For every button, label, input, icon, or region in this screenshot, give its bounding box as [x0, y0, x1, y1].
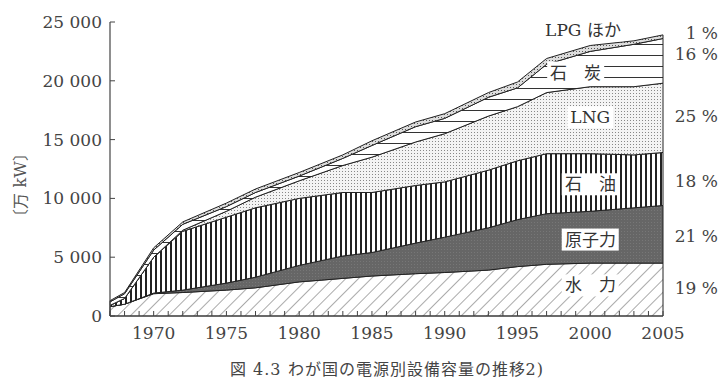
y-axis-label-container: 〔万 kW〕 — [6, 130, 36, 240]
share-percent-label: 21 % — [675, 226, 718, 246]
series-label: 石 炭 — [550, 63, 601, 83]
y-tick-label: 0 — [91, 306, 102, 326]
x-tick-label: 1985 — [350, 323, 393, 343]
x-tick-label: 1970 — [132, 323, 175, 343]
series-label: 水 力 — [565, 275, 616, 295]
y-tick-label: 10 000 — [43, 188, 102, 208]
x-tick-label: 2005 — [641, 323, 684, 343]
share-percent-label: 1 % — [686, 23, 718, 43]
series-label: LNG — [570, 107, 610, 127]
y-tick-label: 25 000 — [43, 12, 102, 32]
y-axis-label-text: 〔万 kW〕 — [11, 145, 30, 224]
y-axis-label: 〔万 kW〕 — [6, 130, 36, 240]
y-tick-label: 15 000 — [43, 130, 102, 150]
series-label: 石 油 — [565, 174, 616, 194]
share-percent-label: 16 % — [675, 44, 718, 64]
share-percent-label: 25 % — [675, 106, 718, 126]
share-percent-label: 18 % — [675, 171, 718, 191]
x-tick-label: 1995 — [496, 323, 539, 343]
x-tick-label: 2000 — [569, 323, 612, 343]
series-label: LPG ほか — [545, 20, 621, 40]
y-tick-label: 20 000 — [43, 71, 102, 91]
x-tick-label: 1980 — [278, 323, 321, 343]
series-label: 原子力 — [565, 230, 616, 250]
figure-caption: 図 4.3 わが国の電源別設備容量の推移2) — [230, 356, 544, 380]
x-tick-label: 1975 — [205, 323, 248, 343]
y-tick-label: 5 000 — [53, 247, 102, 267]
x-tick-label: 1990 — [423, 323, 466, 343]
share-percent-label: 19 % — [675, 278, 718, 298]
